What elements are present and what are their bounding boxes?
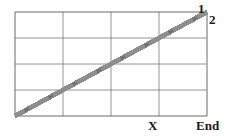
label-one: 1 bbox=[198, 2, 205, 15]
billiard-path-figure bbox=[0, 0, 236, 136]
label-end: End bbox=[196, 119, 219, 132]
label-two: 2 bbox=[209, 13, 216, 26]
label-x: X bbox=[148, 119, 157, 132]
